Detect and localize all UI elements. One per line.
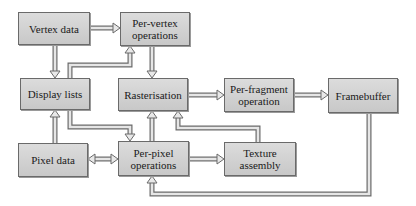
node-label-line1: Per-pixel (133, 147, 173, 159)
node-pixel-data: Pixel data (18, 143, 88, 177)
node-display-lists: Display lists (20, 78, 90, 110)
node-framebuffer: Framebuffer (328, 78, 398, 113)
node-label: Rasterisation (124, 89, 181, 101)
node-vertex-data: Vertex data (18, 12, 90, 45)
node-label-line1: Per-fragment (230, 83, 288, 95)
node-label: Display lists (28, 88, 83, 100)
node-per-fragment-operation: Per-fragment operation (224, 78, 294, 112)
node-texture-assembly: Texture assembly (224, 142, 296, 176)
node-label: Vertex data (29, 23, 79, 35)
node-label-line2: assembly (240, 159, 281, 171)
node-label: Framebuffer (336, 90, 391, 102)
node-per-vertex-operations: Per-vertex operations (120, 12, 190, 46)
node-label-line2: operation (238, 95, 280, 107)
node-per-pixel-operations: Per-pixel operations (118, 141, 189, 176)
node-rasterisation: Rasterisation (118, 78, 188, 111)
node-label-line2: operations (132, 29, 178, 41)
node-label: Pixel data (31, 154, 75, 166)
node-label-line2: operations (131, 159, 177, 171)
node-label-line1: Per-vertex (132, 17, 178, 29)
node-label-line1: Texture (243, 147, 276, 159)
